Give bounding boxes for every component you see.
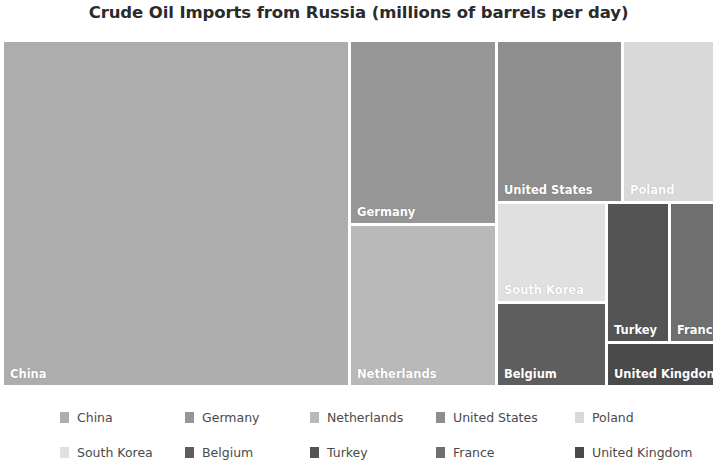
legend-swatch-icon [310,412,319,423]
chart-title: Crude Oil Imports from Russia (millions … [0,3,717,22]
treemap-tile[interactable]: China [4,42,348,385]
legend-item[interactable]: Belgium [185,439,253,465]
legend-swatch-icon [575,447,584,458]
legend-swatch-icon [436,447,445,458]
legend-item[interactable]: France [436,439,495,465]
legend-label: France [453,445,495,460]
legend-swatch-icon [185,412,194,423]
legend-item[interactable]: Netherlands [310,404,403,430]
legend-swatch-icon [310,447,319,458]
legend-label: Germany [202,410,259,425]
treemap-tile[interactable]: South Korea [498,204,605,301]
treemap-tile-label: Turkey [614,323,657,337]
legend-label: United States [453,410,538,425]
legend-item[interactable]: United Kingdom [575,439,692,465]
legend-item[interactable]: South Korea [60,439,153,465]
legend-swatch-icon [436,412,445,423]
legend-row: ChinaGermanyNetherlandsUnited StatesPola… [0,404,717,430]
treemap-tile-label: United States [504,183,593,197]
legend-swatch-icon [60,447,69,458]
treemap-tile-label: Germany [357,205,415,219]
treemap-tile-label: Netherlands [357,367,437,381]
treemap-tile[interactable]: Netherlands [351,226,495,385]
treemap-tile-label: Belgium [504,367,557,381]
legend-item[interactable]: Germany [185,404,259,430]
treemap-tile[interactable]: Turkey [608,204,668,341]
legend-swatch-icon [60,412,69,423]
legend-item[interactable]: United States [436,404,538,430]
treemap-tile[interactable]: Belgium [498,304,605,385]
legend-label: South Korea [77,445,153,460]
treemap-plot-area: ChinaGermanyNetherlandsUnited StatesPola… [4,42,713,385]
treemap-tile[interactable]: United Kingdom [608,344,713,385]
legend-label: Poland [592,410,634,425]
legend-item[interactable]: Turkey [310,439,368,465]
treemap-tile-label: France [677,323,713,337]
legend-label: Netherlands [327,410,403,425]
legend-label: United Kingdom [592,445,692,460]
legend-label: China [77,410,113,425]
treemap-tile-label: United Kingdom [614,367,713,381]
treemap-tile[interactable]: Germany [351,42,495,223]
chart-legend: ChinaGermanyNetherlandsUnited StatesPola… [0,404,717,470]
treemap-tile-label: South Korea [504,283,584,297]
legend-label: Belgium [202,445,253,460]
legend-item[interactable]: China [60,404,113,430]
legend-item[interactable]: Poland [575,404,634,430]
treemap-tile[interactable]: Poland [624,42,713,201]
treemap-tile[interactable]: France [671,204,713,341]
treemap-chart: Crude Oil Imports from Russia (millions … [0,0,717,470]
legend-swatch-icon [575,412,584,423]
legend-swatch-icon [185,447,194,458]
treemap-tile[interactable]: United States [498,42,621,201]
treemap-tile-label: China [10,367,47,381]
legend-row: South KoreaBelgiumTurkeyFranceUnited Kin… [0,439,717,465]
legend-label: Turkey [327,445,368,460]
treemap-tile-label: Poland [630,183,674,197]
